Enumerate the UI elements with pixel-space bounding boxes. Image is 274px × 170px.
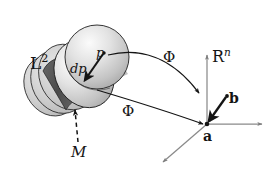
label-Rn: Rn (212, 47, 231, 65)
phi-lower-arrow (97, 90, 203, 124)
figure-canvas: L2 Rn Φ Φ p dp M a b (0, 0, 274, 170)
diagram-vector-graphics (0, 0, 274, 170)
label-L2: L2 (30, 53, 48, 72)
label-point-b: b (229, 91, 239, 105)
label-phi-upper: Φ (163, 50, 175, 65)
axis-down-left (163, 124, 207, 162)
point-a-marker (205, 122, 210, 127)
m-pointer-dashed (75, 110, 78, 142)
b-to-a-vector (209, 97, 226, 121)
label-phi-lower: Φ (122, 104, 134, 119)
label-tangent-dp: dp (70, 62, 87, 75)
label-point-p: p (96, 46, 104, 59)
label-point-a: a (203, 129, 212, 143)
label-submanifold-M: M (71, 145, 86, 160)
